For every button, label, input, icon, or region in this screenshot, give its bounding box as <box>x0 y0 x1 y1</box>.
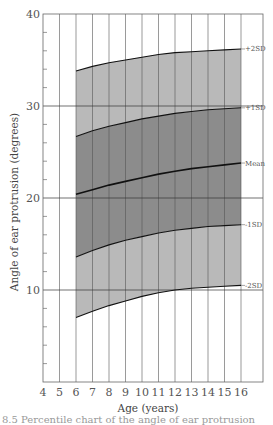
y-tick-label: 20 <box>26 192 40 205</box>
x-tick-label: 14 <box>201 386 215 399</box>
y-tick-label: 40 <box>26 8 40 21</box>
series-label: +1SD <box>245 104 266 112</box>
x-tick-label: 12 <box>168 386 182 399</box>
x-tick-label: 11 <box>152 386 166 399</box>
x-axis-label: Age (years) <box>117 402 179 414</box>
x-tick-label: 13 <box>185 386 199 399</box>
figure-caption: 8.5 Percentile chart of the angle of ear… <box>2 414 255 425</box>
y-axis-label: Angle of ear protrusion (degrees) <box>8 113 20 292</box>
series-label: -1SD <box>245 221 263 229</box>
x-tick-label: 5 <box>56 386 63 399</box>
y-tick-label: 10 <box>26 284 40 297</box>
x-tick-label: 10 <box>135 386 149 399</box>
x-tick-label: 15 <box>218 386 232 399</box>
series-label: +2SD <box>245 45 266 53</box>
series-label: Mean <box>245 160 265 168</box>
x-tick-label: 7 <box>89 386 96 399</box>
x-tick-label: 6 <box>73 386 80 399</box>
series-label: -2SD <box>245 282 263 290</box>
x-tick-label: 16 <box>234 386 248 399</box>
x-tick-label: 4 <box>40 386 47 399</box>
x-tick-label: 8 <box>106 386 113 399</box>
x-tick-label: 9 <box>122 386 129 399</box>
y-tick-label: 30 <box>26 100 40 113</box>
